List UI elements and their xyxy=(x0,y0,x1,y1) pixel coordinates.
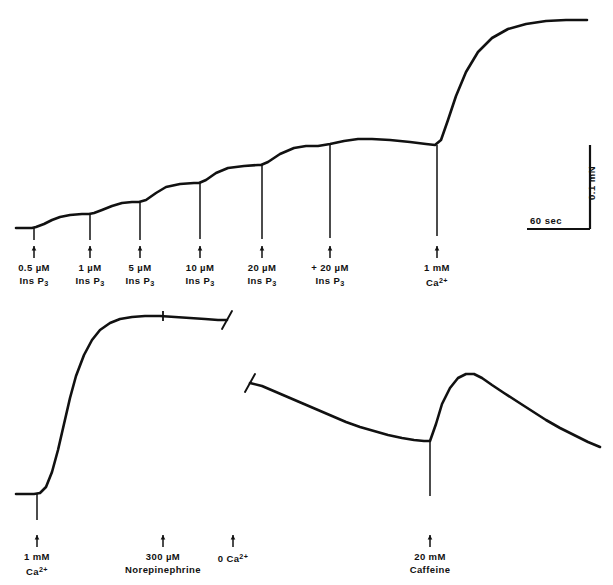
bottom-right-event-label-b4: 20 mMCaffeine xyxy=(410,551,451,576)
top-event-label-m2: 1 µMIns P3 xyxy=(75,262,104,290)
top-event-label-m5: 20 µMIns P3 xyxy=(247,262,276,290)
scale-bar-vertical-label: 0.1 mN xyxy=(586,166,597,200)
top-event-label-m3: 5 µMIns P3 xyxy=(125,262,154,290)
top-event-label-m6: + 20 µMIns P3 xyxy=(311,262,349,290)
top-event-label-m1: 0.5 µMIns P3 xyxy=(18,262,50,290)
top-event-label-m4: 10 µMIns P3 xyxy=(185,262,214,290)
figure-canvas xyxy=(0,0,613,585)
top-event-label-m7: 1 mMCa2+ xyxy=(424,262,450,289)
bottom-left-event-label-b2: 300 µMNorepinephrine xyxy=(125,551,201,576)
scale-bar-horizontal-label: 60 sec xyxy=(530,215,562,226)
bottom-left-event-label-b1: 1 mMCa2+ xyxy=(24,551,50,578)
figure-background xyxy=(0,0,613,585)
bottom-right-event-label-b3: 0 Ca2+ xyxy=(218,551,249,566)
